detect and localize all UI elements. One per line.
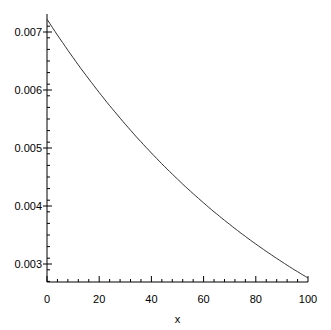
x-tick-label: 0	[44, 293, 50, 305]
plot-area: 0204060801000.0030.0040.0050.0060.007x	[0, 0, 331, 330]
chart: 0204060801000.0030.0040.0050.0060.007x	[0, 0, 331, 330]
y-tick-label: 0.005	[14, 142, 42, 154]
x-tick-label: 80	[250, 293, 262, 305]
x-tick-label: 60	[197, 293, 209, 305]
y-tick-label: 0.004	[14, 200, 42, 212]
x-tick-label: 100	[299, 293, 317, 305]
y-tick-label: 0.003	[14, 258, 42, 270]
x-tick-label: 20	[93, 293, 105, 305]
y-tick-label: 0.006	[14, 84, 42, 96]
x-axis-label: x	[175, 313, 181, 325]
series-line	[47, 19, 308, 278]
x-tick-label: 40	[145, 293, 157, 305]
y-tick-label: 0.007	[14, 26, 42, 38]
